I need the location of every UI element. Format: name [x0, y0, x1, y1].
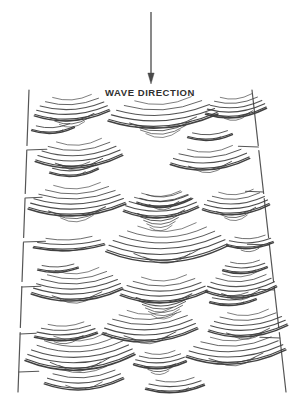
figure-root: WAVE DIRECTION [0, 0, 308, 400]
wave-direction-label: WAVE DIRECTION [105, 87, 195, 98]
ripple-diagram-svg: WAVE DIRECTION [0, 0, 308, 400]
